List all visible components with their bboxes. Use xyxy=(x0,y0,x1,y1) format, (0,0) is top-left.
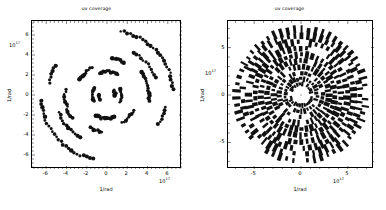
x-axis-label: 1/rad xyxy=(99,186,112,192)
x-tick-label: 6 xyxy=(165,170,168,176)
y-axis-label: 1/rad xyxy=(199,89,205,102)
plot-area-right[interactable] xyxy=(227,20,373,168)
plot-area-left[interactable] xyxy=(31,20,181,168)
y-tick-label: 4 xyxy=(25,51,28,57)
y-tick-label: -5 xyxy=(219,138,224,144)
x-tick-label: 0 xyxy=(104,170,107,176)
figure-canvas: uv coverage -6-4-20246-6-4-2024610171017… xyxy=(0,0,386,210)
y-tick-label: 0 xyxy=(25,91,28,97)
y-tick-label: 6 xyxy=(25,31,28,37)
x-tick-label: 5 xyxy=(345,170,348,176)
y-axis-exponent: 1017 xyxy=(9,41,20,48)
y-axis-exponent: 1017 xyxy=(205,69,216,76)
x-tick-label: 4 xyxy=(145,170,148,176)
x-axis-exponent: 1017 xyxy=(333,177,344,184)
uv-coverage-panel-left: uv coverage -6-4-20246-6-4-2024610171017… xyxy=(0,0,193,210)
y-tick-label: 0 xyxy=(221,91,224,97)
y-tick-label: 2 xyxy=(25,71,28,77)
y-tick-label: -4 xyxy=(23,131,28,137)
x-tick-label: 2 xyxy=(125,170,128,176)
x-tick-label: 0 xyxy=(298,170,301,176)
x-tick-label: -6 xyxy=(43,170,48,176)
panel-title-right: uv coverage xyxy=(193,6,386,11)
x-tick-label: -5 xyxy=(251,170,256,176)
uv-coverage-panel-right: uv coverage -505-505101710171/rad1/rad xyxy=(193,0,386,210)
x-tick-label: -4 xyxy=(63,170,68,176)
y-tick-label: -2 xyxy=(23,111,28,117)
y-tick-label: -6 xyxy=(23,151,28,157)
x-axis-exponent: 1017 xyxy=(159,177,170,184)
panel-title-left: uv coverage xyxy=(0,6,193,11)
scatter-layer-right xyxy=(228,21,374,169)
x-axis-label: 1/rad xyxy=(293,186,306,192)
scatter-layer-left xyxy=(32,21,182,169)
y-tick-label: 5 xyxy=(221,44,224,50)
x-tick-label: -2 xyxy=(83,170,88,176)
y-axis-label: 1/rad xyxy=(6,89,12,102)
